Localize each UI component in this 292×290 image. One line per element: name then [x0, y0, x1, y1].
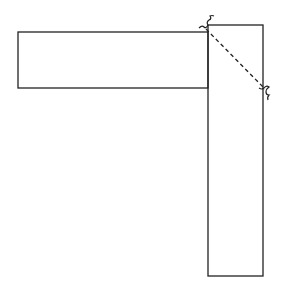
vertical-rectangle — [208, 25, 263, 276]
diagonal-dashed-line — [206, 29, 265, 89]
break-mark-right-icon — [259, 86, 269, 100]
diagram-canvas — [0, 0, 292, 290]
horizontal-rectangle — [18, 32, 208, 88]
break-mark-top-icon — [199, 16, 214, 29]
